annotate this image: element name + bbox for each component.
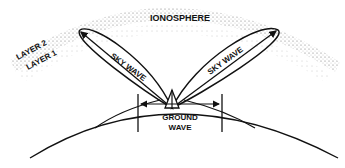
label-ground-wave-line2: WAVE [169,123,193,132]
sky-wave-arrow-right [172,31,276,108]
radio-propagation-diagram: IONOSPHERE LAYER 2 LAYER 1 SKY WAVE SKY … [0,0,345,168]
label-ionosphere: IONOSPHERE [150,13,210,23]
label-ground-wave-line1: GROUND [162,113,198,122]
